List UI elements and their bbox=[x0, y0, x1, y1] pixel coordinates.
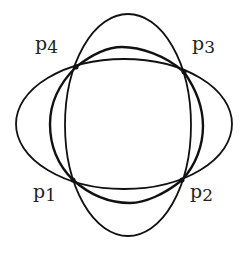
point-p1 bbox=[71, 178, 76, 183]
label-p3: p3 bbox=[192, 34, 215, 53]
label-p2: p2 bbox=[190, 182, 213, 201]
label-p1: p1 bbox=[33, 182, 56, 201]
label-subscript: 4 bbox=[47, 37, 58, 57]
label-base: p bbox=[35, 32, 47, 54]
label-subscript: 3 bbox=[204, 37, 215, 57]
label-p4: p4 bbox=[35, 34, 58, 53]
horizontal-ellipse bbox=[16, 59, 232, 189]
label-base: p bbox=[190, 180, 202, 202]
label-base: p bbox=[33, 180, 45, 202]
point-p4 bbox=[74, 65, 79, 70]
label-subscript: 1 bbox=[45, 185, 56, 205]
point-p3 bbox=[182, 70, 187, 75]
point-p2 bbox=[180, 178, 185, 183]
label-subscript: 2 bbox=[202, 185, 213, 205]
label-base: p bbox=[192, 32, 204, 54]
